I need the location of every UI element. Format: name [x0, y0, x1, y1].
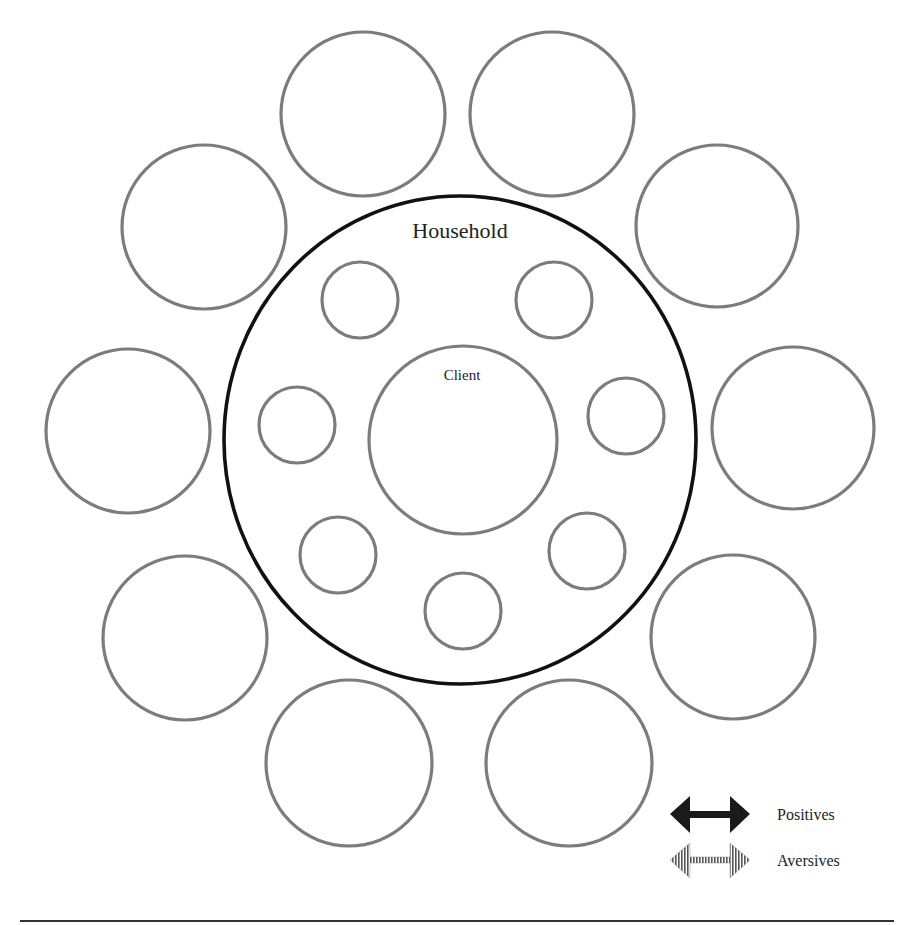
household-member-circle-5: [425, 573, 501, 649]
ecomap-diagram: Household Client Positives Aversives: [0, 0, 910, 925]
striped-double-arrow-icon: [670, 843, 750, 878]
outer-network-circle-3: [636, 145, 798, 307]
legend-label-positives: Positives: [777, 806, 835, 823]
outer-network-circle-7: [266, 680, 432, 846]
client-label: Client: [444, 367, 481, 383]
outer-network-circles: [46, 32, 874, 846]
outer-network-circle-4: [712, 347, 874, 509]
bottom-divider-line: [20, 920, 894, 922]
outer-network-circle-6: [486, 680, 652, 846]
household-member-circle-2: [516, 262, 592, 338]
outer-network-circle-1: [281, 32, 445, 196]
legend-item-aversives: Aversives: [670, 843, 840, 878]
outer-network-circle-5: [651, 555, 815, 719]
solid-double-arrow-icon: [670, 796, 750, 833]
household-member-circle-4: [549, 513, 625, 589]
outer-network-circle-9: [46, 349, 210, 513]
household-member-circles: [259, 262, 664, 649]
household-member-circle-6: [300, 517, 376, 593]
household-member-circle-3: [588, 378, 664, 454]
household-member-circle-1: [322, 262, 398, 338]
legend-item-positives: Positives: [670, 796, 835, 833]
household-member-circle-7: [259, 387, 335, 463]
outer-network-circle-8: [103, 556, 267, 720]
legend: Positives Aversives: [670, 796, 840, 878]
outer-network-circle-2: [470, 32, 634, 196]
household-label: Household: [412, 218, 507, 243]
outer-network-circle-10: [122, 145, 286, 309]
household-boundary-circle: [224, 196, 696, 684]
legend-label-aversives: Aversives: [777, 852, 840, 869]
